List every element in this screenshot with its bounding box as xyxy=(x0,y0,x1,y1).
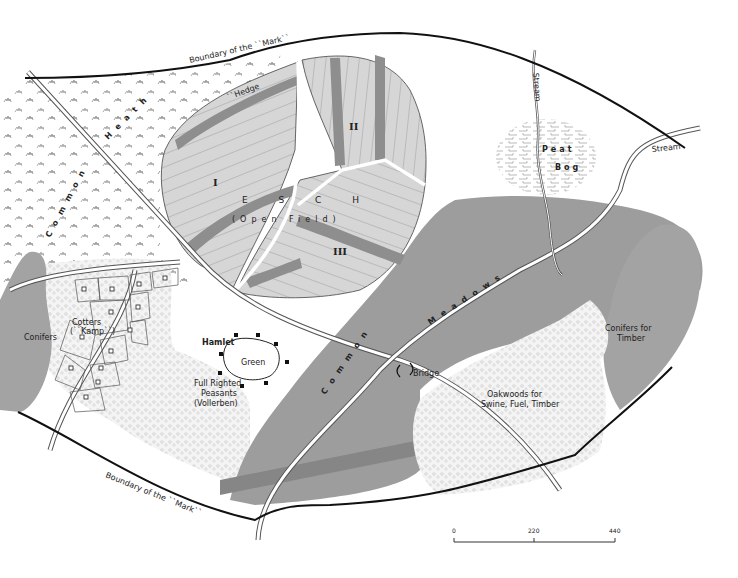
oakwoods-label-1: Oakwoods for xyxy=(487,390,543,399)
peat-label: Peat xyxy=(542,145,575,154)
scale-tick-440: 440 xyxy=(609,527,621,534)
conifers-timber-label-2: Timber xyxy=(616,334,646,343)
scale-tick-0: 0 xyxy=(452,527,456,534)
cotters-label-2: (``Kamp``) xyxy=(70,326,115,336)
stream-label-right: Stream xyxy=(651,142,681,154)
esch-label: E S C H xyxy=(242,195,373,205)
peat-bog-area xyxy=(496,119,596,195)
cotters-label-1: Cotters xyxy=(72,318,101,327)
open-field-label: (Open Field) xyxy=(232,215,341,224)
stream-label-top: Stream xyxy=(531,72,543,102)
bog-label: Bog xyxy=(555,163,581,172)
hamlet-label: Hamlet xyxy=(202,338,235,347)
peasants-label-3: (Vollerben) xyxy=(194,399,238,408)
conifers-left-label: Conifers xyxy=(24,333,57,342)
field-III-label: III xyxy=(333,246,347,257)
peasants-label-1: Full Righted xyxy=(194,379,241,388)
scale-tick-220: 220 xyxy=(528,527,540,534)
bridge-label: Bridge xyxy=(413,369,439,378)
green-label: Green xyxy=(241,358,265,367)
scale-bar: 0 220 440 xyxy=(452,527,621,542)
peasants-label-2: Peasants xyxy=(201,389,237,398)
village-mark-map: Boundary of the ``Mark`` Boundary of the… xyxy=(0,0,738,578)
field-II-label: II xyxy=(349,121,359,132)
oakwoods-label-2: Swine, Fuel, Timber xyxy=(481,400,560,409)
field-I-label: I xyxy=(213,177,218,188)
boundary-label-bottom: Boundary of the ``Mark`` xyxy=(104,470,203,518)
conifers-timber-label-1: Conifers for xyxy=(605,324,652,333)
